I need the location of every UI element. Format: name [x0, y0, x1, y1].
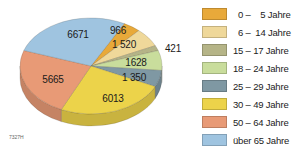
- legend-label: 18 – 24 Jahre: [233, 63, 289, 74]
- slice-value-label: 1628: [125, 57, 146, 68]
- legend-swatch: [202, 98, 227, 110]
- legend-label: 25 – 29 Jahre: [233, 81, 289, 92]
- legend-label: 30 – 49 Jahre: [233, 99, 289, 110]
- pie-graphic: [0, 0, 200, 154]
- slice-value-label: 966: [110, 25, 126, 36]
- legend-item: 15 – 17 Jahre: [202, 41, 300, 59]
- legend-swatch: [202, 134, 227, 146]
- legend-label: 0 – 5 Jahre: [233, 9, 291, 20]
- slice-value-label: 6013: [102, 93, 123, 104]
- legend-swatch: [202, 80, 227, 92]
- legend-item: 0 – 5 Jahre: [202, 5, 300, 23]
- legend-item: 25 – 29 Jahre: [202, 77, 300, 95]
- legend-swatch: [202, 8, 227, 20]
- legend-item: 30 – 49 Jahre: [202, 95, 300, 113]
- figure-code: 7327H: [9, 134, 24, 140]
- slice-value-label: 421: [165, 43, 181, 54]
- legend-label: 50 – 64 Jahre: [233, 117, 289, 128]
- legend-item: 50 – 64 Jahre: [202, 113, 300, 131]
- pie-chart: 9661 52042116281 350601356656671: [0, 0, 200, 154]
- legend-swatch: [202, 116, 227, 128]
- legend-swatch: [202, 26, 227, 38]
- legend: 0 – 5 Jahre 6 – 14 Jahre15 – 17 Jahre18 …: [202, 5, 300, 149]
- legend-swatch: [202, 44, 227, 56]
- legend-item: 18 – 24 Jahre: [202, 59, 300, 77]
- legend-label: 6 – 14 Jahre: [233, 27, 291, 38]
- legend-item: 6 – 14 Jahre: [202, 23, 300, 41]
- legend-label: über 65 Jahre: [233, 135, 289, 146]
- legend-swatch: [202, 62, 227, 74]
- slice-value-label: 5665: [42, 74, 63, 85]
- slice-value-label: 1 520: [112, 39, 136, 50]
- slice-value-label: 1 350: [122, 72, 146, 83]
- slice-value-label: 6671: [67, 29, 88, 40]
- legend-item: über 65 Jahre: [202, 131, 300, 149]
- legend-label: 15 – 17 Jahre: [233, 45, 289, 56]
